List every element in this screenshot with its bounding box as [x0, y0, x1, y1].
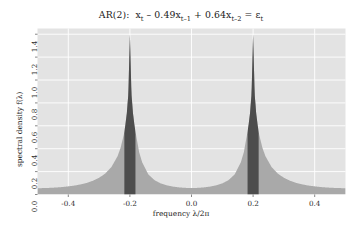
y-tick-label: 1.0 [29, 80, 38, 104]
y-axis-label: spectral density f(λ) [15, 92, 24, 167]
x-tick-label: 0.2 [238, 199, 268, 208]
x-tick-label: 0.0 [177, 199, 207, 208]
y-tick-label: 0.8 [29, 103, 38, 127]
spectral-density-plot [0, 0, 362, 228]
x-axis-label: frequency λ/2π [0, 209, 362, 218]
y-tick-label: 1.4 [29, 34, 38, 58]
y-tick-label: 1.2 [29, 57, 38, 81]
y-tick-label: 0.2 [29, 172, 38, 196]
figure-canvas: AR(2):xt – 0.49xt–1 + 0.64xt–2 = εt 0.00… [0, 0, 362, 228]
x-tick-label: -0.4 [53, 199, 83, 208]
x-tick-label: 0.4 [300, 199, 330, 208]
y-tick-label: 0.4 [29, 149, 38, 173]
x-tick-label: -0.2 [115, 199, 145, 208]
y-tick-label: 0.6 [29, 126, 38, 150]
